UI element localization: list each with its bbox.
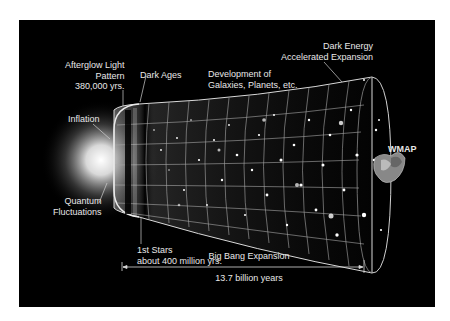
label-development-line1: Development of bbox=[208, 69, 298, 80]
label-afterglow-line1: Afterglow Light bbox=[65, 60, 125, 71]
label-afterglow: Afterglow Light Pattern 380,000 yrs. bbox=[65, 60, 125, 92]
label-afterglow-line2: Pattern bbox=[65, 71, 125, 82]
label-dark-energy: Dark Energy Accelerated Expansion bbox=[281, 41, 373, 62]
label-quantum-line2: Fluctuations bbox=[53, 207, 102, 218]
label-timeline-duration: 13.7 billion years bbox=[199, 273, 299, 284]
label-quantum-fluctuations: Quantum Fluctuations bbox=[53, 196, 102, 217]
diagram-panel: Afterglow Light Pattern 380,000 yrs. Dar… bbox=[19, 20, 435, 307]
label-dark-energy-line1: Dark Energy bbox=[281, 41, 373, 52]
label-quantum-line1: Quantum bbox=[53, 196, 102, 207]
expansion-cone bbox=[114, 77, 372, 273]
label-afterglow-line3: 380,000 yrs. bbox=[65, 81, 125, 92]
label-development: Development of Galaxies, Planets, etc. bbox=[208, 69, 298, 90]
label-dark-ages: Dark Ages bbox=[140, 70, 182, 81]
wmap-satellite bbox=[374, 152, 405, 182]
label-dark-energy-line2: Accelerated Expansion bbox=[281, 52, 373, 63]
label-timeline-title: Big Bang Expansion bbox=[199, 251, 299, 262]
label-inflation: Inflation bbox=[68, 114, 100, 125]
label-development-line2: Galaxies, Planets, etc. bbox=[208, 80, 298, 91]
label-wmap: WMAP bbox=[388, 144, 417, 155]
